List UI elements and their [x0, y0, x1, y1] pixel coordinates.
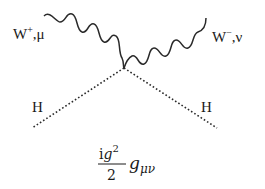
w-plus-propagator — [44, 14, 124, 68]
vertex-factor-numerator: ig2 — [99, 143, 119, 162]
h-left-propagator — [32, 68, 124, 128]
w-minus-label: W−,ν — [212, 27, 243, 45]
h-right-label: H — [201, 99, 212, 115]
w-minus-propagator — [124, 18, 206, 68]
vertex-factor-denominator: 2 — [107, 167, 116, 183]
h-left-label: H — [32, 99, 43, 115]
feynman-diagram: W+,μ W−,ν H H ig2 2 gμν — [0, 0, 265, 189]
vertex-factor: ig2 2 gμν — [98, 143, 155, 183]
metric-tensor: gμν — [129, 153, 155, 176]
w-plus-label: W+,μ — [13, 24, 45, 42]
h-right-propagator — [124, 68, 217, 128]
